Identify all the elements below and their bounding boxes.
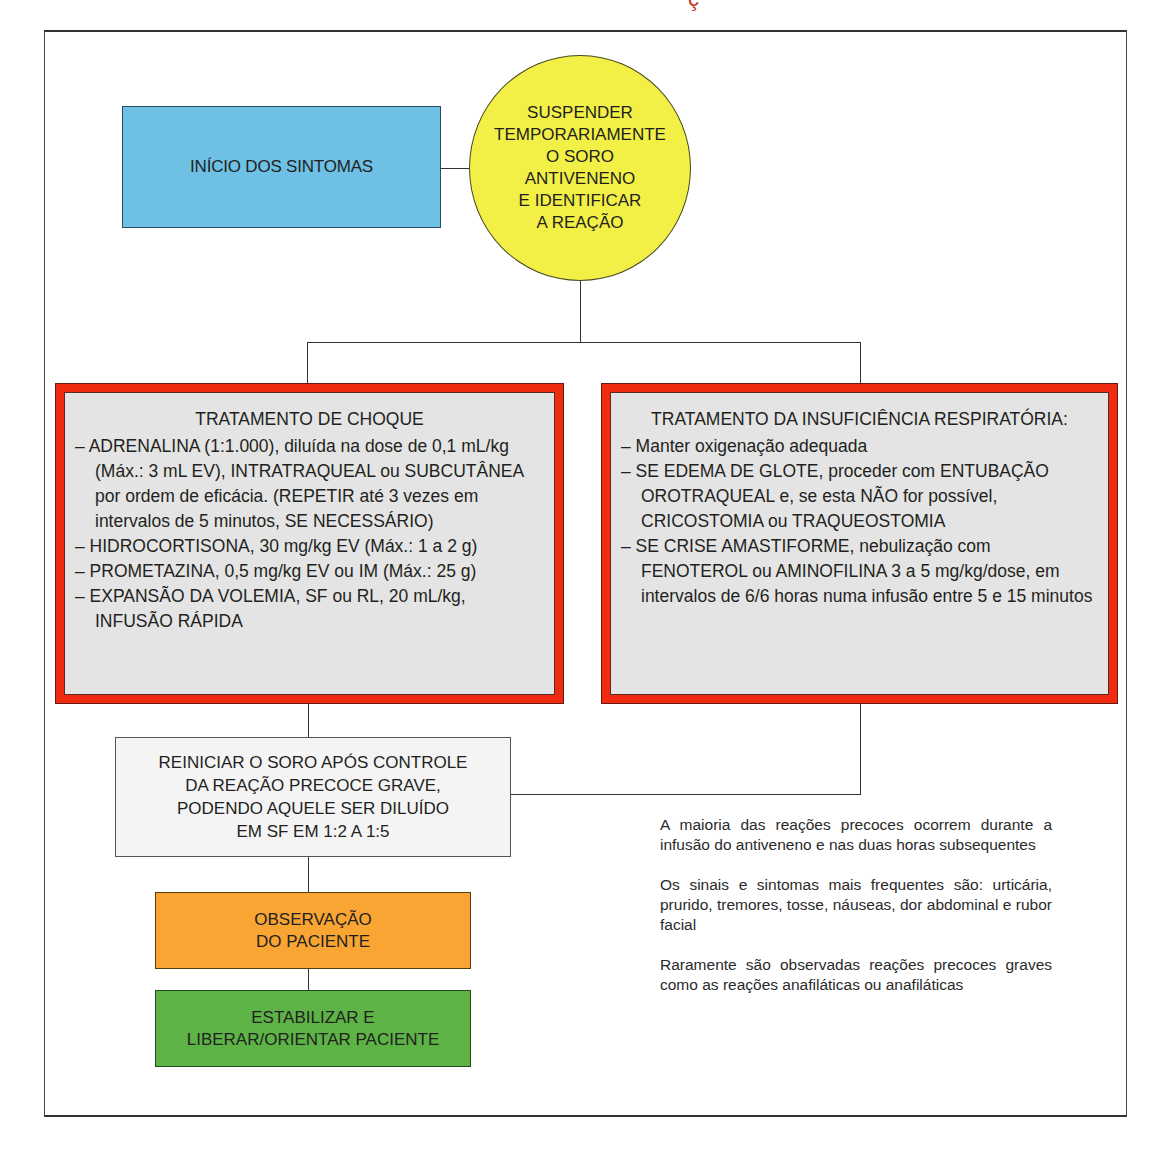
respiratory-treatment-item: – SE EDEMA DE GLOTE, proceder com ENTUBA… [621, 459, 1098, 534]
respiratory-treatment-box: TRATAMENTO DA INSUFICIÊNCIA RESPIRATÓRIA… [601, 383, 1118, 704]
shock-treatment-box: TRATAMENTO DE CHOQUE – ADRENALINA (1:1.0… [55, 383, 564, 704]
respiratory-treatment-item: – SE CRISE AMASTIFORME, nebulização com … [621, 534, 1098, 609]
connector-resp-to-restart [511, 794, 861, 795]
shock-treatment-item: – ADRENALINA (1:1.000), diluída na dose … [75, 434, 544, 534]
shock-treatment-item: – HIDROCORTISONA, 30 mg/kg EV (Máx.: 1 a… [75, 534, 544, 559]
shock-treatment-heading: TRATAMENTO DE CHOQUE [75, 407, 544, 432]
connector-branch-left [307, 342, 308, 383]
connector-suspend-down [580, 281, 581, 343]
suspend-line: TEMPORARIAMENTE [494, 124, 666, 146]
connector-resp-down [860, 704, 861, 795]
shock-treatment-content: TRATAMENTO DE CHOQUE – ADRENALINA (1:1.0… [64, 392, 555, 695]
note-paragraph: Os sinais e sintomas mais frequentes são… [660, 875, 1052, 935]
suspend-line: O SORO [546, 146, 614, 168]
start-symptoms-label: INÍCIO DOS SINTOMAS [190, 157, 373, 177]
respiratory-treatment-heading: TRATAMENTO DA INSUFICIÊNCIA RESPIRATÓRIA… [621, 407, 1098, 432]
shock-treatment-item: – EXPANSÃO DA VOLEMIA, SF ou RL, 20 mL/k… [75, 584, 544, 634]
connector-restart-to-observe [308, 857, 309, 892]
observe-line: DO PACIENTE [256, 931, 370, 953]
clipped-title: ç [688, 0, 699, 12]
connector-branch-right [860, 342, 861, 383]
side-notes: A maioria das reações precoces ocorrem d… [660, 815, 1052, 1015]
suspend-line: ANTIVENENO [525, 168, 636, 190]
connector-branch-horizontal [307, 342, 861, 343]
observe-patient-box: OBSERVAÇÃO DO PACIENTE [155, 892, 471, 969]
restart-line: PODENDO AQUELE SER DILUÍDO [177, 797, 449, 820]
restart-line: REINICIAR O SORO APÓS CONTROLE [159, 751, 468, 774]
note-paragraph: A maioria das reações precoces ocorrem d… [660, 815, 1052, 855]
suspend-line: SUSPENDER [527, 102, 633, 124]
connector-observe-to-stabilize [308, 969, 309, 990]
observe-line: OBSERVAÇÃO [254, 909, 371, 931]
suspend-line: E IDENTIFICAR [519, 190, 642, 212]
suspend-line: A REAÇÃO [537, 212, 624, 234]
connector-start-to-suspend [441, 168, 469, 169]
stabilize-line: LIBERAR/ORIENTAR PACIENTE [187, 1029, 440, 1051]
respiratory-treatment-item: – Manter oxigenação adequada [621, 434, 1098, 459]
suspend-serum-circle: SUSPENDER TEMPORARIAMENTE O SORO ANTIVEN… [469, 55, 691, 281]
respiratory-treatment-content: TRATAMENTO DA INSUFICIÊNCIA RESPIRATÓRIA… [610, 392, 1109, 695]
restart-line: EM SF EM 1:2 A 1:5 [236, 820, 389, 843]
restart-serum-box: REINICIAR O SORO APÓS CONTROLE DA REAÇÃO… [115, 737, 511, 857]
note-paragraph: Raramente são observadas reações precoce… [660, 955, 1052, 995]
connector-shock-to-restart [308, 704, 309, 737]
restart-line: DA REAÇÃO PRECOCE GRAVE, [185, 774, 441, 797]
stabilize-line: ESTABILIZAR E [251, 1007, 374, 1029]
shock-treatment-item: – PROMETAZINA, 0,5 mg/kg EV ou IM (Máx.:… [75, 559, 544, 584]
start-symptoms-box: INÍCIO DOS SINTOMAS [122, 106, 441, 228]
stabilize-patient-box: ESTABILIZAR E LIBERAR/ORIENTAR PACIENTE [155, 990, 471, 1067]
